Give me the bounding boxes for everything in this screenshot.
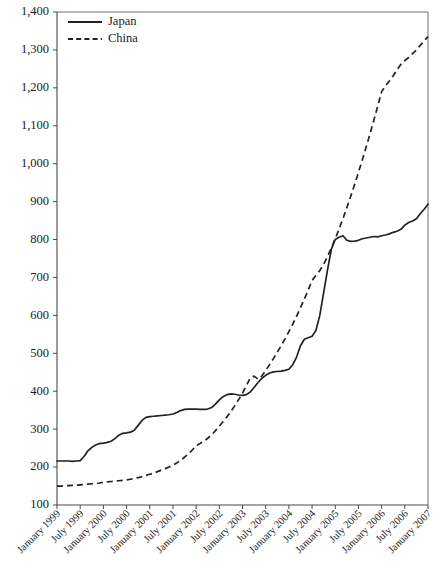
- chart-legend: JapanChina: [68, 14, 138, 45]
- data-series: [57, 37, 428, 486]
- chart-container: 1002003004005006007008009001,0001,1001,2…: [0, 0, 442, 568]
- y-tick-label: 600: [30, 308, 49, 322]
- series-line-china: [57, 37, 428, 486]
- y-axis-labels: 1002003004005006007008009001,0001,1001,2…: [21, 4, 49, 511]
- y-tick-label: 700: [30, 270, 49, 284]
- y-tick-label: 1,400: [21, 4, 49, 18]
- y-axis-ticks: [53, 12, 57, 505]
- y-tick-label: 500: [30, 346, 49, 360]
- y-tick-label: 1,100: [21, 118, 49, 132]
- y-tick-label: 300: [30, 422, 49, 436]
- plot-axes: [57, 12, 428, 505]
- y-tick-label: 1,000: [21, 156, 49, 170]
- y-tick-label: 800: [30, 232, 49, 246]
- legend-label-china: China: [108, 31, 138, 45]
- plot-frame: [57, 12, 428, 505]
- y-tick-label: 100: [30, 497, 49, 511]
- series-line-japan: [57, 204, 428, 461]
- legend-label-japan: Japan: [108, 14, 137, 28]
- x-axis-ticks: [57, 505, 428, 509]
- y-tick-label: 900: [30, 194, 49, 208]
- y-tick-label: 200: [30, 459, 49, 473]
- y-tick-label: 1,300: [21, 42, 49, 56]
- y-tick-label: 1,200: [21, 80, 49, 94]
- plot-frame-top-right: [57, 12, 428, 505]
- x-axis-labels: January 1999July 1999January 2000July 20…: [15, 507, 434, 555]
- line-chart: 1002003004005006007008009001,0001,1001,2…: [0, 0, 442, 568]
- y-tick-label: 400: [30, 384, 49, 398]
